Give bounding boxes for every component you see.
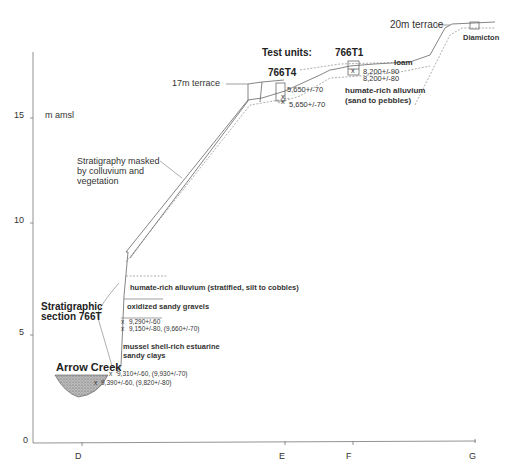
layer-oxidized-gravels: oxidized sandy gravels bbox=[127, 303, 209, 311]
loam-label: loam bbox=[394, 59, 413, 67]
y-tick-5: 5 bbox=[19, 328, 24, 337]
x-tick-G: G bbox=[469, 452, 476, 461]
y-axis-unit-label: m amsl bbox=[45, 111, 74, 120]
test-unit-766T1-date-2: 8,200+/-80 bbox=[363, 75, 399, 83]
arrow-creek-label: Arrow Creek bbox=[56, 362, 121, 374]
upper-alluvium-label-1: humate-rich alluvium bbox=[345, 87, 425, 95]
y-tick-10: 10 bbox=[14, 216, 24, 225]
upper-alluvium-label-2: (sand to pebbles) bbox=[345, 97, 411, 105]
x-axis bbox=[33, 439, 476, 446]
y-tick-0: 0 bbox=[23, 436, 28, 445]
layer-mussel-shell-1: mussel shell-rich estuarine bbox=[123, 343, 220, 351]
section-766T-bracket bbox=[97, 283, 119, 369]
layer-mussel-shell-2: sandy clays bbox=[123, 352, 166, 360]
y-axis bbox=[30, 52, 33, 443]
section-date-lower-2: 9,390+/-60, (9,820+/-80) bbox=[101, 380, 171, 387]
terrace-20m-label: 20m terrace bbox=[390, 20, 443, 31]
test-unit-766T4-label: 766T4 bbox=[268, 68, 296, 79]
y-tick-15: 15 bbox=[14, 111, 24, 120]
test-unit-766T1-label: 766T1 bbox=[335, 48, 363, 59]
section-766T-title-2: section 766T bbox=[41, 312, 102, 323]
section-date-upper-2: 9,150+/-80, (9,660+/-70) bbox=[129, 326, 199, 333]
test-unit-766T4-date-2: 5,650+/-70 bbox=[289, 101, 325, 109]
diamicton-label: Diamicton bbox=[463, 34, 499, 42]
sample-marker: x bbox=[351, 67, 355, 75]
masked-note-leader bbox=[160, 161, 182, 178]
sample-marker: x bbox=[121, 326, 124, 333]
cross-section-diagram bbox=[0, 0, 516, 475]
terrace-17m-label: 17m terrace bbox=[172, 79, 220, 88]
section-date-lower-1: 9,310+/-60, (9,930+/-70) bbox=[117, 371, 187, 378]
x-tick-F: F bbox=[346, 452, 352, 461]
x-tick-D: D bbox=[75, 452, 82, 461]
test-units-heading: Test units: bbox=[262, 48, 312, 59]
layer-humate-alluvium: humate-rich alluvium (stratified, silt t… bbox=[130, 284, 299, 292]
masked-note-line-3: vegetation bbox=[77, 177, 119, 186]
ground-surface-line bbox=[116, 22, 495, 373]
contact-dashed-lines bbox=[126, 28, 495, 276]
test-unit-766T4-date-1: 5,650+/-70 bbox=[287, 86, 323, 94]
sample-marker: x bbox=[281, 98, 285, 106]
sample-marker: x bbox=[94, 380, 97, 387]
x-tick-E: E bbox=[279, 452, 285, 461]
